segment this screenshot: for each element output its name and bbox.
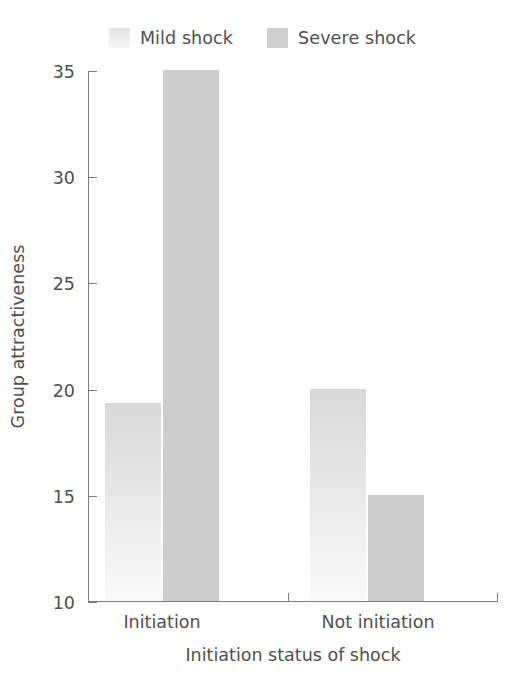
y-axis-title: Group attractiveness — [6, 71, 30, 602]
x-category-label-not-initiation: Not initiation — [321, 612, 434, 632]
y-tick-label-30: 30 — [53, 168, 75, 188]
plot-area: 35 30 25 20 15 10 Initiation Not initiat… — [88, 71, 498, 602]
y-tick-35: 35 — [88, 71, 97, 72]
legend-label-mild-shock: Mild shock — [140, 28, 233, 48]
x-category-label-initiation: Initiation — [123, 612, 200, 632]
bar-initiation-severe-shock — [163, 70, 219, 601]
mild-shock-swatch-icon — [109, 28, 130, 48]
y-tick-25: 25 — [88, 283, 97, 284]
bar-chart-figure: Mild shock Severe shock Group attractive… — [0, 0, 525, 685]
legend-entry-mild-shock: Mild shock — [109, 28, 233, 48]
y-tick-label-25: 25 — [53, 274, 75, 294]
y-tick-15: 15 — [88, 496, 97, 497]
bar-not-initiation-severe-shock — [368, 495, 424, 601]
chart-legend: Mild shock Severe shock — [0, 28, 525, 48]
bar-not-initiation-mild-shock — [310, 389, 366, 601]
y-tick-label-35: 35 — [53, 62, 75, 82]
legend-entry-severe-shock: Severe shock — [267, 28, 416, 48]
x-axis-line — [88, 601, 498, 602]
y-tick-20: 20 — [88, 390, 97, 391]
y-tick-label-20: 20 — [53, 381, 75, 401]
x-tick-group-separator — [288, 593, 289, 602]
y-tick-10: 10 — [88, 602, 97, 603]
bar-initiation-mild-shock — [105, 403, 161, 601]
legend-label-severe-shock: Severe shock — [298, 28, 416, 48]
y-axis-line — [88, 71, 89, 602]
severe-shock-swatch-icon — [267, 28, 288, 48]
y-tick-label-15: 15 — [53, 487, 75, 507]
y-tick-30: 30 — [88, 177, 97, 178]
x-axis-title: Initiation status of shock — [88, 645, 498, 665]
x-axis-right-cap — [497, 593, 498, 602]
y-tick-label-10: 10 — [53, 593, 75, 613]
